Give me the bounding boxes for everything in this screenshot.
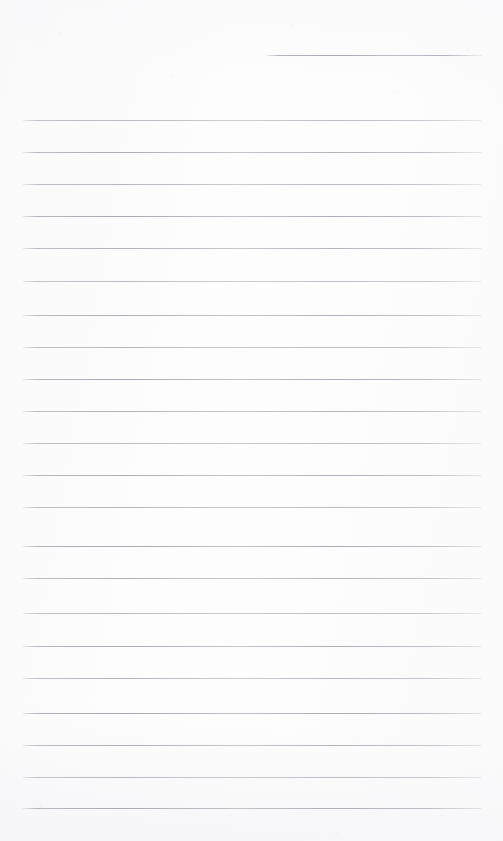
notebook-page xyxy=(0,0,503,841)
writing-area[interactable] xyxy=(23,40,481,820)
